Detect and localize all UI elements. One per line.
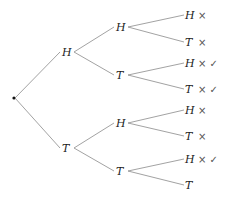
edge-root-to-level1	[15, 98, 60, 148]
leaf-marks: ×	[198, 10, 206, 21]
edge-root-to-level1	[15, 52, 60, 98]
edge-level2-to-leaf	[128, 27, 184, 42]
leaf-node-label-h: H	[184, 57, 195, 70]
leaf-marks: × ✓	[198, 58, 218, 69]
edge-level2-to-leaf	[128, 15, 184, 27]
edge-level2-to-leaf	[128, 75, 184, 89]
level1-node-label-h: H	[61, 46, 72, 59]
leaf-marks: × ✓	[198, 84, 218, 95]
level1-node-label-t: T	[62, 142, 71, 155]
leaf-node-label-h: H	[184, 9, 195, 22]
edge-level1-to-level2	[74, 52, 114, 75]
leaf-node-label-t: T	[185, 83, 194, 96]
edge-level2-to-leaf	[128, 159, 184, 171]
edge-level2-to-leaf	[128, 123, 184, 136]
leaf-marks: ×	[198, 131, 206, 142]
edge-level1-to-level2	[74, 27, 114, 52]
leaf-node-label-t: T	[185, 130, 194, 143]
edge-level1-to-level2	[74, 123, 114, 148]
level2-node-label-t: T	[116, 69, 125, 82]
probability-tree: HTHTHTH×T×H× ✓T× ✓H×T×H× ✓T	[0, 0, 234, 199]
leaf-node-label-h: H	[184, 153, 195, 166]
edge-level2-to-leaf	[128, 171, 184, 185]
edge-level2-to-leaf	[128, 110, 184, 123]
leaf-node-label-t: T	[185, 179, 194, 192]
leaf-marks: ×	[198, 105, 206, 116]
edge-level1-to-level2	[74, 148, 114, 171]
level2-node-label-h: H	[115, 21, 126, 34]
leaf-node-label-h: H	[184, 104, 195, 117]
edge-level2-to-leaf	[128, 63, 184, 75]
level2-node-label-h: H	[115, 117, 126, 130]
level2-node-label-t: T	[116, 165, 125, 178]
leaf-marks: ×	[198, 37, 206, 48]
leaf-node-label-t: T	[185, 36, 194, 49]
leaf-marks: × ✓	[198, 154, 218, 165]
